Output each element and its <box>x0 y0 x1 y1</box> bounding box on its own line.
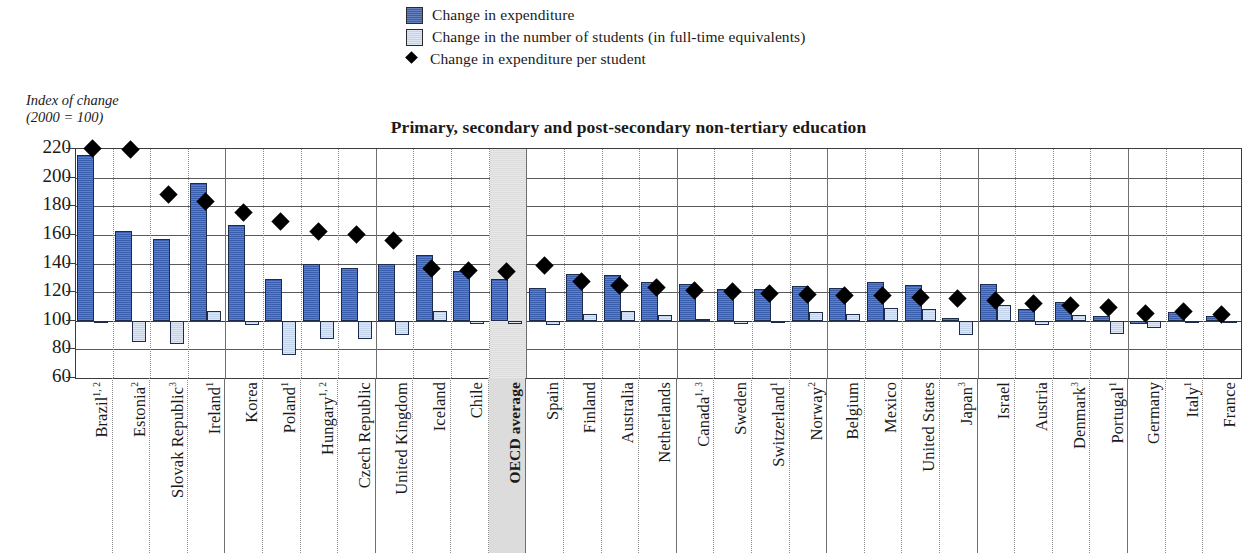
square-dark-blue-icon <box>406 7 423 24</box>
marker-expenditure-per-student <box>272 212 290 230</box>
bar-students <box>771 321 785 323</box>
x-axis-category-finland: Finland <box>564 378 602 553</box>
bar-students <box>1223 321 1237 323</box>
category-label: Czech Republic <box>357 382 374 488</box>
bar-expenditure <box>228 225 245 321</box>
x-axis-category-labels: Brazil1, 2Estonia2Slovak Republic3Irelan… <box>75 378 1240 553</box>
bar-expenditure <box>942 318 959 321</box>
x-axis-category-austria: Austria <box>1015 378 1053 553</box>
legend-label-per-student: Change in expenditure per student <box>430 50 646 68</box>
bar-students <box>132 321 146 342</box>
square-light-blue-icon <box>406 29 423 46</box>
marker-expenditure-per-student <box>384 231 402 249</box>
plot-column-denmark <box>1054 149 1092 378</box>
plot-column-switzerland <box>753 149 791 378</box>
x-axis-category-ireland: Ireland1 <box>188 378 226 553</box>
category-footnote-marker: 1 <box>280 382 290 387</box>
category-label: Brazil1, 2 <box>93 382 110 438</box>
marker-expenditure-per-student <box>159 185 177 203</box>
x-axis-category-france: France <box>1203 378 1240 553</box>
category-label: Switzerland1 <box>770 382 787 467</box>
x-axis-category-mexico: Mexico <box>865 378 903 553</box>
y-tick-label-60: 60 <box>11 365 71 387</box>
bar-students <box>959 321 973 335</box>
bar-expenditure <box>115 231 132 321</box>
bar-expenditure <box>1093 316 1110 320</box>
y-tick-mark-200 <box>66 177 75 178</box>
plot-column-estonia <box>114 149 152 378</box>
plot-column-belgium <box>828 149 866 378</box>
bar-students <box>170 321 184 344</box>
plot-area <box>75 148 1242 379</box>
y-axis-caption-line1: Index of change <box>26 92 119 109</box>
plot-column-norway <box>791 149 829 378</box>
x-axis-category-sweden: Sweden <box>714 378 752 553</box>
category-label: United Kingdom <box>394 382 411 495</box>
plot-column-japan <box>941 149 979 378</box>
x-axis-category-germany: Germany <box>1128 378 1166 553</box>
x-axis-category-united-states: United States <box>902 378 940 553</box>
category-label: United States <box>921 382 938 472</box>
x-axis-category-korea: Korea <box>225 378 263 553</box>
bar-students <box>1110 321 1124 334</box>
x-axis-category-estonia: Estonia2 <box>113 378 151 553</box>
plot-columns <box>76 149 1241 378</box>
category-footnote-marker: 1 <box>769 382 779 387</box>
y-tick-mark-120 <box>66 291 75 292</box>
plot-column-france <box>1204 149 1241 378</box>
category-footnote-marker: 3 <box>957 382 967 387</box>
y-tick-label-160: 160 <box>11 222 71 244</box>
marker-expenditure-per-student <box>1137 304 1155 322</box>
x-axis-category-australia: Australia <box>602 378 640 553</box>
plot-column-brazil <box>76 149 114 378</box>
y-tick-label-140: 140 <box>11 251 71 273</box>
category-label: Israel <box>996 382 1013 419</box>
marker-expenditure-per-student <box>121 141 139 159</box>
bar-students <box>433 311 447 321</box>
bar-students <box>658 315 672 321</box>
legend-label-expenditure: Change in expenditure <box>432 6 574 24</box>
y-tick-mark-220 <box>66 148 75 149</box>
category-label: OECD average <box>507 382 523 484</box>
plot-column-hungary <box>302 149 340 378</box>
category-label: Poland1 <box>281 382 298 433</box>
category-label: Portugal1 <box>1109 382 1126 444</box>
legend-label-students: Change in the number of students (in ful… <box>432 28 806 46</box>
marker-expenditure-per-student <box>535 257 553 275</box>
plot-column-portugal <box>1091 149 1129 378</box>
bar-expenditure <box>153 239 170 321</box>
plot-column-mexico <box>866 149 904 378</box>
marker-expenditure-per-student <box>497 262 515 280</box>
diamond-black-icon <box>406 52 421 67</box>
x-axis-category-switzerland: Switzerland1 <box>752 378 790 553</box>
category-label: Norway2 <box>808 382 825 441</box>
category-label: Finland <box>582 382 599 433</box>
bar-students <box>1072 315 1086 321</box>
y-tick-mark-160 <box>66 234 75 235</box>
plot-column-sweden <box>715 149 753 378</box>
bar-students <box>884 308 898 321</box>
plot-column-germany <box>1129 149 1167 378</box>
plot-column-italy <box>1167 149 1205 378</box>
y-tick-label-120: 120 <box>11 279 71 301</box>
category-footnote-marker: 1 <box>1183 382 1193 387</box>
y-tick-label-100: 100 <box>11 308 71 330</box>
x-axis-category-chile: Chile <box>451 378 489 553</box>
category-footnote-marker: 3 <box>168 382 178 387</box>
y-tick-label-220: 220 <box>11 136 71 158</box>
category-footnote-marker: 1, 3 <box>694 382 704 397</box>
category-label: Denmark3 <box>1071 382 1088 449</box>
bar-expenditure <box>378 264 395 321</box>
category-label: Spain <box>545 382 562 420</box>
category-footnote-marker: 1 <box>205 382 215 387</box>
y-tick-mark-100 <box>66 320 75 321</box>
category-label: Estonia2 <box>131 382 148 437</box>
plot-column-oecd-average <box>490 149 528 378</box>
marker-expenditure-per-student <box>949 290 967 308</box>
x-axis-category-norway: Norway2 <box>790 378 828 553</box>
legend-item-expenditure: Change in expenditure <box>406 4 966 26</box>
plot-column-australia <box>603 149 641 378</box>
category-label: Germany <box>1146 382 1163 444</box>
category-label: Mexico <box>883 382 900 433</box>
category-label: Slovak Republic3 <box>169 382 186 498</box>
